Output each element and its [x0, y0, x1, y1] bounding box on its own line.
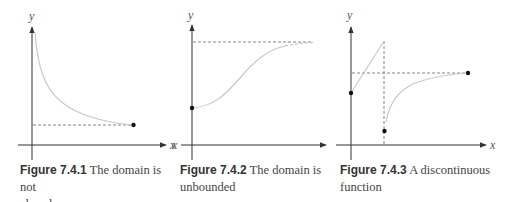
right-dot	[466, 71, 470, 75]
figure-number: Figure 7.4.1	[20, 163, 87, 177]
caption-text-cont: function	[340, 180, 382, 194]
figure-7-4-2-plot: y x	[171, 8, 326, 160]
y-axis-label: y	[346, 8, 353, 22]
figure-7-4-1-caption: Figure 7.4.1 The domain is not closed	[20, 162, 180, 202]
curve	[35, 32, 133, 125]
x-axis-label: x	[171, 138, 178, 152]
caption-text: The domain is	[247, 163, 321, 177]
figure-number: Figure 7.4.2	[180, 163, 247, 177]
figure-number: Figure 7.4.3	[340, 163, 407, 177]
linear-segment	[351, 41, 384, 93]
left-dot	[349, 91, 353, 95]
caption-text-cont: unbounded	[180, 180, 236, 194]
figure-7-4-2-caption: Figure 7.4.2 The domain is unbounded	[180, 162, 340, 196]
figures-canvas: y x y x y x	[0, 0, 517, 160]
curve	[386, 73, 468, 122]
y-axis-label: y	[28, 9, 35, 23]
caption-text: A discontinuous	[407, 163, 490, 177]
figure-7-4-3-caption: Figure 7.4.3 A discontinuous function	[340, 162, 515, 196]
curve	[192, 46, 285, 108]
start-dot	[190, 106, 194, 110]
caption-text-cont: closed	[20, 197, 52, 202]
jump-dot	[382, 129, 386, 133]
curve-tail-dashed	[285, 43, 313, 47]
figure-7-4-3-plot: y x	[336, 8, 496, 160]
y-axis-label: y	[187, 8, 194, 22]
endpoint-dot	[131, 123, 135, 127]
x-axis-label: x	[489, 138, 496, 152]
figure-7-4-1-plot: y x	[18, 9, 176, 160]
